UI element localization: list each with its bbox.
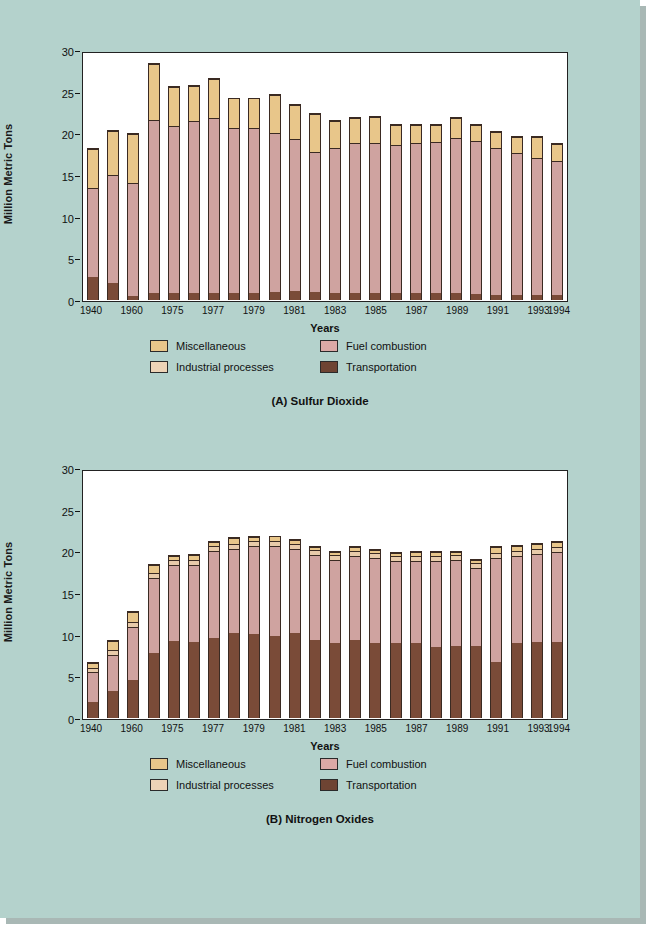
- bar-segment-miscellaneous: [108, 131, 118, 175]
- legend-grid-b: Miscellaneous Fuel combustion Industrial…: [150, 758, 490, 791]
- y-tick-mark: [75, 677, 80, 678]
- bar-1994: [551, 541, 563, 719]
- bar-segment-fuel-combustion: [149, 120, 159, 293]
- y-tick-label: 25: [48, 505, 74, 519]
- x-tick-1985: 1985: [370, 304, 382, 320]
- bar-segment-fuel-combustion: [310, 152, 320, 291]
- x-tick-label: 1981: [283, 305, 305, 316]
- bar-1979: [248, 98, 260, 301]
- bar-segment-transportation: [149, 293, 159, 300]
- x-tick-1988: [431, 304, 443, 320]
- bar-segment-transportation: [249, 293, 259, 300]
- x-tick-1993: 1993: [533, 722, 545, 738]
- y-tick-label: 25: [48, 87, 74, 101]
- x-axis-ticks-b: 1940196019751977197919811983198519871989…: [82, 722, 568, 738]
- bar-segment-miscellaneous: [149, 565, 159, 573]
- x-tick-label: 1960: [121, 723, 143, 734]
- bar-segment-miscellaneous: [370, 117, 380, 143]
- x-tick-1985: 1985: [370, 722, 382, 738]
- bar-segment-miscellaneous: [88, 149, 98, 188]
- bar-1988: [430, 551, 442, 718]
- x-tick-1978: [227, 722, 239, 738]
- bar-segment-fuel-combustion: [512, 153, 522, 295]
- x-tick-1975: 1975: [166, 304, 178, 320]
- figure-caption-b: (B) Nitrogen Oxides: [0, 813, 640, 825]
- y-tick-label: 5: [48, 671, 74, 685]
- x-tick-label: 1983: [324, 305, 346, 316]
- bar-1992: [511, 136, 523, 300]
- y-tick-label: 0: [48, 713, 74, 727]
- legend-grid-a: Miscellaneous Fuel combustion Industrial…: [150, 340, 490, 373]
- bar-segment-miscellaneous: [512, 137, 522, 153]
- y-tick-label: 20: [48, 546, 74, 560]
- legend-item-miscellaneous: Miscellaneous: [150, 340, 320, 352]
- bar-segment-transportation: [330, 293, 340, 300]
- x-tick-label: 1960: [121, 305, 143, 316]
- bar-segment-transportation: [229, 293, 239, 300]
- x-tick-1994: 1994: [553, 304, 565, 320]
- bar-segment-fuel-combustion: [391, 145, 401, 292]
- y-tick-mark: [75, 134, 80, 135]
- x-tick-label: 1977: [202, 305, 224, 316]
- x-tick-label: 1989: [446, 723, 468, 734]
- x-tick-1960: 1960: [126, 304, 138, 320]
- y-tick-label: 10: [48, 212, 74, 226]
- x-tick-1988: [431, 722, 443, 738]
- y-tick-mark: [75, 511, 80, 512]
- bar-segment-transportation: [209, 293, 219, 300]
- bar-1984: [349, 117, 361, 300]
- page-content: Million Metric Tons 051015202530 1940196…: [0, 0, 640, 918]
- x-tick-label: 1979: [243, 305, 265, 316]
- bar-segment-fuel-combustion: [552, 552, 562, 642]
- bar-segment-miscellaneous: [391, 125, 401, 145]
- bar-segment-transportation: [169, 641, 179, 718]
- bar-segment-transportation: [290, 291, 300, 300]
- bar-segment-fuel-combustion: [128, 183, 138, 296]
- axes-frame-a: [82, 52, 568, 302]
- bar-segment-miscellaneous: [431, 125, 441, 142]
- legend-label-miscellaneous: Miscellaneous: [176, 758, 246, 770]
- x-axis-title-b: Years: [82, 740, 568, 752]
- bar-1975: [168, 555, 180, 718]
- bar-segment-transportation: [431, 647, 441, 718]
- y-tick-label: 0: [48, 295, 74, 309]
- bar-segment-miscellaneous: [169, 87, 179, 126]
- bar-1987: [410, 124, 422, 300]
- x-tick-1983: 1983: [329, 304, 341, 320]
- bar-1981: [289, 539, 301, 718]
- bar-segment-fuel-combustion: [491, 148, 501, 295]
- bar-segment-fuel-combustion: [330, 560, 340, 644]
- y-axis-ticks-b: 051015202530: [52, 470, 80, 720]
- bar-1950: [107, 130, 119, 300]
- bar-segment-miscellaneous: [451, 118, 461, 139]
- x-tick-label: 1981: [283, 723, 305, 734]
- bar-segment-miscellaneous: [310, 114, 320, 152]
- x-tick-1990: [472, 722, 484, 738]
- bar-segment-fuel-combustion: [350, 556, 360, 640]
- bar-segment-transportation: [229, 633, 239, 718]
- bar-segment-fuel-combustion: [249, 546, 259, 634]
- x-tick-1982: [309, 304, 321, 320]
- bar-1981: [289, 104, 301, 300]
- bar-segment-transportation: [491, 662, 501, 718]
- bar-1991: [490, 131, 502, 300]
- bar-segment-miscellaneous: [330, 121, 340, 148]
- bar-segment-transportation: [169, 293, 179, 300]
- legend-label-transportation: Transportation: [346, 779, 417, 791]
- y-tick-mark: [75, 636, 80, 637]
- bar-1940: [87, 662, 99, 718]
- figure-caption-a: (A) Sulfur Dioxide: [0, 395, 640, 407]
- bar-1986: [390, 552, 402, 718]
- x-tick-label: 1993: [527, 305, 549, 316]
- x-tick-label: 1975: [161, 305, 183, 316]
- bar-segment-transportation: [471, 646, 481, 718]
- bar-segment-fuel-combustion: [512, 556, 522, 642]
- x-axis-ticks-a: 1940196019751977197919811983198519871989…: [82, 304, 568, 320]
- bar-segment-transportation: [370, 643, 380, 718]
- legend-item-industrial-processes: Industrial processes: [150, 361, 320, 373]
- y-tick-label: 15: [48, 170, 74, 184]
- bar-segment-fuel-combustion: [330, 148, 340, 293]
- bar-segment-transportation: [128, 296, 138, 300]
- bar-segment-fuel-combustion: [391, 561, 401, 642]
- bar-segment-miscellaneous: [108, 641, 118, 650]
